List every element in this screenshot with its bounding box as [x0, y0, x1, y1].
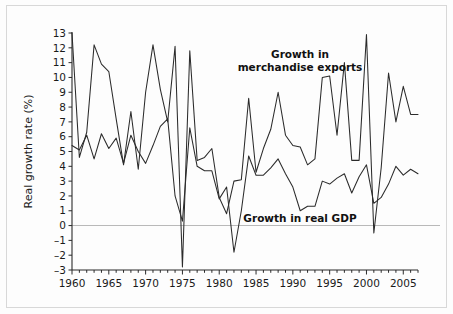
svg-text:1: 1	[59, 204, 66, 216]
svg-text:1980: 1980	[206, 277, 233, 289]
svg-text:–2: –2	[54, 249, 66, 261]
svg-text:9: 9	[59, 86, 66, 98]
x-axis-ticks: 1960196519701975198019851990199520002005	[59, 270, 418, 289]
svg-text:1970: 1970	[132, 277, 159, 289]
exports-annotation-line2: merchandise exports	[238, 61, 363, 73]
svg-text:1975: 1975	[169, 277, 196, 289]
svg-text:–3: –3	[54, 264, 66, 276]
svg-text:10: 10	[53, 71, 66, 83]
svg-text:1965: 1965	[95, 277, 122, 289]
y-axis-title: Real growth rate (%)	[22, 95, 35, 209]
svg-text:8: 8	[59, 101, 66, 113]
chart-figure: 131211109876543210–1–2–3 196019651970197…	[0, 0, 453, 314]
svg-text:–1: –1	[54, 234, 66, 246]
svg-text:6: 6	[59, 130, 66, 142]
svg-text:5: 5	[59, 145, 66, 157]
svg-text:3: 3	[59, 175, 66, 187]
gdp-annotation: Growth in real GDP	[243, 212, 357, 224]
svg-text:2000: 2000	[353, 277, 380, 289]
svg-text:7: 7	[59, 116, 66, 128]
svg-text:13: 13	[53, 27, 66, 39]
svg-text:1960: 1960	[59, 277, 86, 289]
svg-text:2: 2	[59, 190, 66, 202]
svg-text:11: 11	[53, 56, 66, 68]
exports-annotation-line1: Growth in	[271, 48, 329, 60]
svg-text:1985: 1985	[243, 277, 270, 289]
svg-text:0: 0	[59, 219, 66, 231]
svg-text:12: 12	[53, 42, 66, 54]
svg-text:1995: 1995	[316, 277, 343, 289]
svg-text:4: 4	[59, 160, 66, 172]
y-axis-ticks: 131211109876543210–1–2–3	[53, 27, 72, 276]
line-chart: 131211109876543210–1–2–3 196019651970197…	[0, 0, 453, 314]
svg-text:2005: 2005	[390, 277, 417, 289]
svg-text:1990: 1990	[279, 277, 306, 289]
